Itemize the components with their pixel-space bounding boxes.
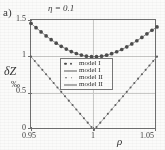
data-point-marker (39, 30, 43, 34)
legend-marker-line (63, 67, 78, 74)
data-point-marker (122, 95, 124, 97)
data-point-marker (56, 86, 58, 88)
data-point-marker (156, 56, 158, 58)
data-point-marker (79, 113, 81, 115)
legend: model Ι model Ι model ΙΙ model ΙΙ (60, 58, 113, 90)
data-point-marker (141, 73, 143, 75)
figure-panel: a) η = 0.1 δZ ‰ ρ 1.5 1 0.5 0 0.95 1 1.0… (0, 0, 165, 150)
data-point-marker (38, 64, 40, 66)
data-point-marker (90, 126, 92, 128)
data-point-marker (120, 48, 124, 52)
data-point-marker (95, 126, 97, 128)
data-point-marker (80, 53, 84, 57)
y-tick-label: 1.5 (4, 14, 26, 23)
data-point-marker (145, 32, 149, 36)
data-point-marker (130, 42, 134, 46)
data-point-marker (99, 122, 101, 124)
data-point-marker (135, 39, 139, 43)
data-point-marker (105, 53, 109, 57)
data-point-marker (34, 60, 36, 62)
data-point-marker (49, 38, 53, 42)
data-point-marker (68, 100, 70, 102)
data-point-marker (54, 41, 58, 45)
data-point-marker (64, 95, 66, 97)
legend-entry: model ΙΙ (63, 81, 110, 88)
y-axis-title: δZ (4, 64, 16, 79)
data-point-marker (87, 122, 89, 124)
data-point-marker (75, 52, 79, 56)
data-point-marker (59, 44, 63, 48)
data-point-marker (75, 108, 77, 110)
data-point-marker (60, 91, 62, 93)
data-point-marker (114, 104, 116, 106)
plot-title: η = 0.1 (48, 3, 74, 13)
data-point-marker (107, 113, 109, 115)
data-point-marker (110, 52, 114, 56)
data-point-marker (152, 60, 154, 62)
data-point-marker (145, 69, 147, 71)
data-point-marker (83, 117, 85, 119)
data-point-marker (45, 73, 47, 75)
data-point-marker (49, 78, 51, 80)
legend-label: model ΙΙ (78, 81, 103, 88)
legend-marker-line (63, 81, 78, 88)
data-point-marker (150, 28, 154, 32)
y-tick-label: 1 (10, 50, 26, 59)
data-point-marker (64, 47, 68, 51)
data-point-marker (140, 36, 144, 40)
data-point-marker (133, 82, 135, 84)
data-point-marker (103, 117, 105, 119)
data-point-marker (111, 108, 113, 110)
data-point-marker (41, 69, 43, 71)
data-point-marker (148, 64, 150, 66)
data-point-marker (30, 56, 32, 58)
data-point-marker (115, 50, 119, 54)
x-tick-label: 1 (91, 131, 95, 140)
data-point-marker (44, 34, 48, 38)
data-point-marker (53, 82, 55, 84)
data-point-marker (129, 86, 131, 88)
data-point-marker (137, 78, 139, 80)
data-point-marker (69, 50, 73, 54)
legend-marker-two-small-dots (63, 74, 78, 81)
legend-marker-two-dots (63, 60, 78, 67)
data-point-marker (125, 45, 129, 49)
x-tick-label: 0.95 (22, 131, 36, 140)
data-point-marker (155, 25, 159, 29)
data-point-marker (29, 21, 33, 25)
data-point-marker (126, 91, 128, 93)
data-point-marker (34, 26, 38, 30)
data-point-marker (72, 104, 74, 106)
data-point-marker (93, 129, 95, 131)
y-tick-label: 0.5 (4, 86, 26, 95)
x-tick-label: 1.05 (140, 131, 154, 140)
x-axis-title: ρ (117, 135, 122, 147)
data-point-marker (118, 100, 120, 102)
